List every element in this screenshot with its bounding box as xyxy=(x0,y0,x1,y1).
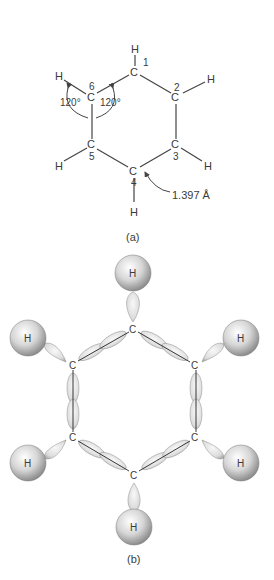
atom-h4: H xyxy=(130,206,138,218)
atom-number-6: 6 xyxy=(89,81,95,92)
hydrogen-top: H xyxy=(129,268,136,279)
carbon-top: C xyxy=(129,324,136,335)
angle-label-left: 120° xyxy=(60,97,81,108)
atom-h3: H xyxy=(204,160,212,172)
bond-length-pointer xyxy=(145,172,170,192)
atom-number-4: 4 xyxy=(131,177,137,188)
atom-h5: H xyxy=(55,160,63,172)
hydrogen-upper-left: H xyxy=(24,333,31,344)
atom-h1: H xyxy=(131,43,139,55)
bond-length-label: 1.397 Å xyxy=(172,189,211,201)
cc-sigma-lobes xyxy=(67,328,202,473)
atom-c5: C xyxy=(87,138,95,150)
caption-b: (b) xyxy=(127,553,140,565)
atom-number-1: 1 xyxy=(143,57,149,68)
atom-number-5: 5 xyxy=(89,151,95,162)
atom-h6: H xyxy=(55,70,63,82)
atom-c4: C xyxy=(129,165,137,177)
atom-c3: C xyxy=(171,138,179,150)
hydrogen-lower-left: H xyxy=(24,458,31,469)
atom-number-3: 3 xyxy=(173,151,179,162)
atom-number-2: 2 xyxy=(174,82,180,93)
carbon-lower-right: C xyxy=(191,432,198,443)
carbon-upper-left: C xyxy=(69,360,76,371)
atom-c6: C xyxy=(87,91,95,103)
carbon-upper-right: C xyxy=(191,360,198,371)
atom-h2: H xyxy=(207,73,215,85)
hydrogen-lower-right: H xyxy=(237,458,244,469)
hydrogen-upper-right: H xyxy=(237,333,244,344)
carbon-lower-left: C xyxy=(69,432,76,443)
figure-a-labels: H C 1 C 2 H C 3 H C 4 H C 5 H C 6 H 120°… xyxy=(55,43,215,243)
caption-a: (a) xyxy=(126,231,139,243)
hydrogen-bottom: H xyxy=(130,522,137,533)
benzene-figure: H C 1 C 2 H C 3 H C 4 H C 5 H C 6 H 120°… xyxy=(0,0,274,580)
atom-c1: C xyxy=(130,66,138,78)
carbon-bottom: C xyxy=(130,470,137,481)
angle-label-right: 120° xyxy=(100,97,121,108)
